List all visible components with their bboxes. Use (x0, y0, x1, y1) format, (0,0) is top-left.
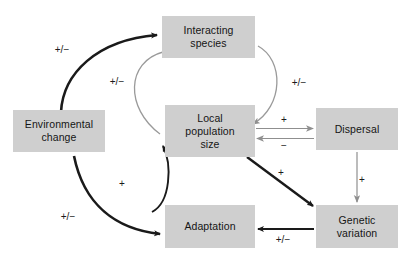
edge-label-env-change-to-interacting-species: +/− (55, 45, 69, 55)
node-label-adaptation: Adaptation (184, 220, 235, 233)
edge-label-interacting-species-to-local-population-right: +/− (292, 78, 306, 88)
node-label-genetic-variation: Genetic variation (337, 214, 378, 240)
edge-label-dispersal-to-genetic-variation: + (359, 175, 365, 185)
node-label-local-population-size: Local population size (185, 112, 234, 151)
edge-label-adaptation-to-local-population: + (119, 179, 125, 189)
node-interacting-species[interactable]: Interacting species (162, 16, 255, 58)
edge-label-genetic-variation-to-adaptation: +/− (276, 235, 290, 245)
edge-local-population-to-genetic-variation (247, 157, 313, 206)
node-label-environmental-change: Environmental change (25, 118, 93, 144)
edge-interacting-species-to-local-population-right (253, 46, 277, 124)
node-genetic-variation[interactable]: Genetic variation (316, 205, 398, 248)
node-environmental-change[interactable]: Environmental change (13, 110, 105, 152)
edge-env-change-to-interacting-species (61, 35, 157, 112)
edge-env-change-to-adaptation (74, 156, 160, 234)
edge-interacting-species-to-local-population-left (134, 52, 163, 134)
edge-label-dispersal-to-local-population: − (281, 141, 287, 151)
edge-label-env-change-to-adaptation: +/− (61, 212, 75, 222)
node-dispersal[interactable]: Dispersal (316, 108, 398, 150)
node-label-dispersal: Dispersal (335, 123, 380, 136)
node-adaptation[interactable]: Adaptation (165, 205, 255, 248)
node-label-interacting-species: Interacting species (183, 24, 233, 50)
edge-label-local-population-to-dispersal: + (281, 115, 287, 125)
diagram-canvas: Environmental change Interacting species… (0, 0, 410, 262)
edge-label-local-population-to-genetic-variation: + (278, 168, 284, 178)
edge-label-interacting-species-to-local-population-left: +/− (110, 77, 124, 87)
node-local-population-size[interactable]: Local population size (165, 105, 255, 157)
